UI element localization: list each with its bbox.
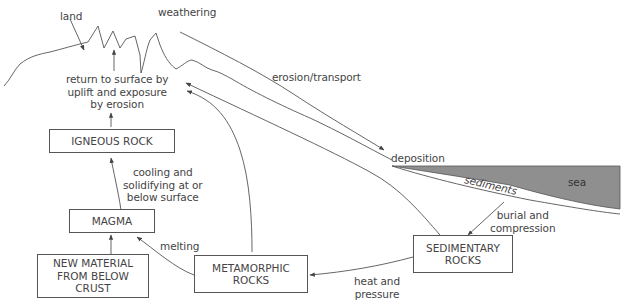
cooling-label: cooling and solidifying at or below surf… — [123, 166, 203, 204]
heat-pressure-arrow — [310, 257, 413, 275]
igneous-rock-box: IGNEOUS ROCK — [49, 129, 175, 153]
burial-label: burial and compression — [490, 209, 555, 234]
land-label: land — [60, 10, 82, 23]
magma-box: MAGMA — [69, 209, 155, 233]
weathering-label: weathering — [158, 6, 216, 19]
sedimentary-rocks-box: SEDIMENTARY ROCKS — [413, 235, 513, 273]
cooling-arrow — [111, 158, 121, 210]
land-pointer-arrow — [70, 19, 84, 50]
return-to-surface-label: return to surface by uplift and exposure… — [66, 73, 168, 111]
erosion-transport-arrow — [180, 32, 384, 150]
sea-label: sea — [568, 176, 586, 189]
metamorphic-rocks-box: METAMORPHIC ROCKS — [194, 255, 308, 293]
heat-pressure-label: heat and pressure — [354, 275, 400, 300]
deposition-label: deposition — [391, 152, 445, 165]
new-material-box: NEW MATERIAL FROM BELOW CRUST — [37, 254, 149, 298]
erosion-transport-label: erosion/transport — [272, 71, 361, 84]
melting-label: melting — [160, 240, 199, 253]
